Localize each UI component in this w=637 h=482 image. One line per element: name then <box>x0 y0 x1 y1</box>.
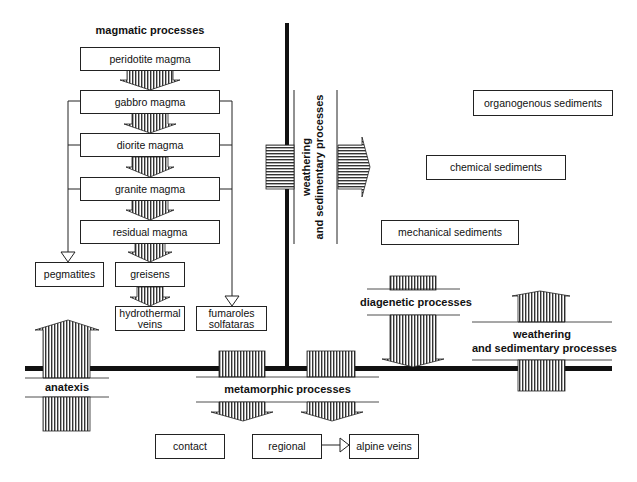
diagenetic-label: diagenetic processes <box>360 296 470 308</box>
box-fumaroles-solfataras: fumaroles solfataras <box>196 306 267 331</box>
box-hydrothermal-veins: hydrothermal veins <box>115 306 185 331</box>
weathering-vertical-line1: weathering <box>300 92 313 242</box>
hydrothermal-line2: veins <box>138 319 163 330</box>
box-peridotite-magma: peridotite magma <box>80 47 220 71</box>
hydrothermal-line1: hydrothermal <box>119 308 180 319</box>
vertical-divider-line <box>285 23 289 369</box>
box-contact: contact <box>155 434 225 459</box>
box-organogenous-sediments: organogenous sediments <box>473 90 613 116</box>
weathering-right-label: weathering and sedimentary processes <box>472 327 612 355</box>
box-diorite-magma: diorite magma <box>80 133 220 157</box>
box-pegmatites: pegmatites <box>35 262 104 287</box>
weathering-vertical-label: weathering and sedimentary processes <box>300 92 330 242</box>
weathering-right-line1: weathering <box>472 327 612 341</box>
box-regional: regional <box>252 434 322 459</box>
alpine-arrowhead-icon <box>340 438 349 452</box>
box-granite-magma: granite magma <box>80 177 220 201</box>
diagenetic-arrow <box>367 276 460 367</box>
weathering-right-line2: and sedimentary processes <box>472 341 612 355</box>
box-residual-magma: residual magma <box>80 220 220 244</box>
fumaroles-arrowhead-icon <box>225 296 239 306</box>
box-chemical-sediments: chemical sediments <box>426 155 566 180</box>
metamorphic-label: metamorphic processes <box>196 383 379 395</box>
box-gabbro-magma: gabbro magma <box>80 90 220 114</box>
box-alpine-veins: alpine veins <box>349 434 419 459</box>
weathering-left-hatch <box>266 145 294 189</box>
fumaroles-line2: solfataras <box>209 319 255 330</box>
anatexis-arrow <box>25 320 109 431</box>
weathering-vertical-line2: and sedimentary processes <box>313 92 326 242</box>
anatexis-label: anatexis <box>25 381 109 393</box>
pegmatites-arrowhead-icon <box>61 252 75 262</box>
fumaroles-line1: fumaroles <box>208 308 254 319</box>
weathering-right-arrow <box>338 137 370 197</box>
box-greisens: greisens <box>115 262 185 287</box>
magmatic-title: magmatic processes <box>80 24 220 36</box>
box-mechanical-sediments: mechanical sediments <box>381 220 519 245</box>
